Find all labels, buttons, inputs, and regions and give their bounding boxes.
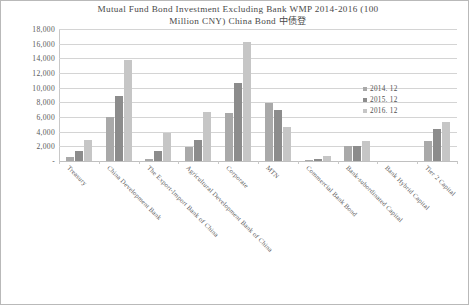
bar[interactable] xyxy=(433,129,441,161)
y-axis-tick-label: 6,000 xyxy=(5,113,55,122)
bar-group xyxy=(258,29,298,161)
bar[interactable] xyxy=(243,42,251,161)
legend-swatch-icon xyxy=(363,109,367,113)
y-axis-tick-label: 2,000 xyxy=(5,142,55,151)
bar[interactable] xyxy=(163,133,171,161)
y-axis-tick-label: 12,000 xyxy=(5,69,55,78)
bar[interactable] xyxy=(75,151,83,161)
bar[interactable] xyxy=(194,140,202,161)
y-axis-tick-label: 14,000 xyxy=(5,54,55,63)
bar[interactable] xyxy=(234,83,242,161)
bar[interactable] xyxy=(203,112,211,161)
legend-label: 2015. 12 xyxy=(370,96,398,104)
legend-label: 2016. 12 xyxy=(370,107,398,115)
legend-item[interactable]: 2016. 12 xyxy=(363,105,398,116)
bar[interactable] xyxy=(362,141,370,161)
bar[interactable] xyxy=(124,60,132,161)
x-axis-category-label: MTN xyxy=(265,164,281,180)
chart-title: Mutual Fund Bond Investment Excluding Ba… xyxy=(63,4,413,27)
bar[interactable] xyxy=(305,160,313,161)
bar[interactable] xyxy=(283,127,291,161)
x-axis-category-label: Treasury xyxy=(66,164,89,187)
bar[interactable] xyxy=(314,159,322,161)
bar[interactable] xyxy=(66,157,74,161)
x-axis-labels: TreasuryChina Development BankThe Export… xyxy=(59,164,459,284)
y-axis-tick-label: 4,000 xyxy=(5,127,55,136)
legend-label: 2014. 12 xyxy=(370,85,398,93)
x-axis-category-label: Bank Hybrid Capital xyxy=(384,164,431,211)
y-axis-tick-label: 18,000 xyxy=(5,25,55,34)
bar[interactable] xyxy=(106,117,114,161)
bar[interactable] xyxy=(185,147,193,161)
legend-item[interactable]: 2014. 12 xyxy=(363,83,398,94)
bar[interactable] xyxy=(115,96,123,161)
y-axis-labels: 18,00016,00014,00012,00010,0008,0006,000… xyxy=(1,29,55,161)
bar[interactable] xyxy=(145,159,153,161)
bar[interactable] xyxy=(154,151,162,161)
bar[interactable] xyxy=(323,156,331,162)
bar-group xyxy=(59,29,99,161)
legend-swatch-icon xyxy=(363,87,367,91)
chart-container: Mutual Fund Bond Investment Excluding Ba… xyxy=(0,0,469,305)
x-axis-category-label: Corporate xyxy=(225,164,250,189)
y-axis-tick-label: 8,000 xyxy=(5,98,55,107)
bar-group xyxy=(417,29,457,161)
x-axis-category-label: The Export-Import Bank of China xyxy=(146,164,220,238)
y-axis-tick-label: 16,000 xyxy=(5,39,55,48)
bar[interactable] xyxy=(442,122,450,161)
x-axis-category-label: Tier 2 Capital xyxy=(424,164,457,197)
bar[interactable] xyxy=(265,103,273,161)
bar[interactable] xyxy=(344,146,352,161)
y-axis-tick-label: - xyxy=(5,157,55,166)
chart-legend: 2014. 122015. 122016. 12 xyxy=(363,83,398,116)
bar-group xyxy=(99,29,139,161)
bar[interactable] xyxy=(353,146,361,161)
bar-group xyxy=(298,29,338,161)
x-axis-category-label: Agricultural Development Bank of China xyxy=(185,164,274,253)
legend-item[interactable]: 2015. 12 xyxy=(363,94,398,105)
bar-group xyxy=(218,29,258,161)
bar[interactable] xyxy=(274,110,282,161)
legend-swatch-icon xyxy=(363,98,367,102)
bar[interactable] xyxy=(84,140,92,161)
y-axis-tick-label: 10,000 xyxy=(5,83,55,92)
bar-group xyxy=(139,29,179,161)
bar[interactable] xyxy=(424,141,432,161)
bar-group xyxy=(178,29,218,161)
bar[interactable] xyxy=(225,113,233,161)
